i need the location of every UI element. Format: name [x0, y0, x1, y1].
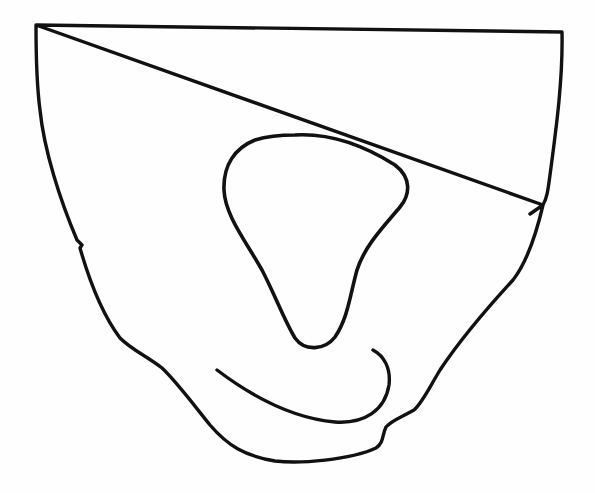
lower-arc-shape — [217, 350, 389, 422]
inner-loop-shape — [224, 135, 408, 348]
drawing-canvas — [0, 0, 595, 493]
line-drawing — [0, 0, 595, 493]
outer-outline-shape — [36, 25, 562, 462]
